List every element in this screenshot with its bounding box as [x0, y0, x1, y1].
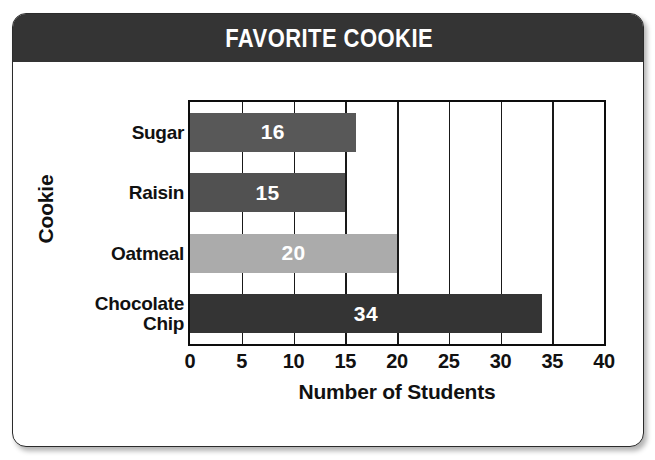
category-label: Chocolate Chip	[95, 294, 184, 333]
chart-body: Cookie SugarRaisinOatmealChocolate Chip …	[13, 62, 644, 446]
gridline-35	[552, 102, 554, 344]
bar-value-label: 20	[281, 241, 305, 265]
category-label-list: SugarRaisinOatmealChocolate Chip	[68, 100, 184, 346]
x-axis-tick-label: 40	[593, 350, 615, 373]
bar: 16	[190, 113, 356, 152]
bar: 34	[190, 294, 542, 333]
x-axis-tick-label: 25	[438, 350, 460, 373]
bar-value-label: 16	[261, 120, 285, 144]
bar-value-label: 34	[354, 302, 378, 326]
x-axis-tick-label: 30	[490, 350, 512, 373]
bar: 20	[190, 234, 397, 273]
plot-area: 16152034	[188, 100, 606, 346]
bar: 15	[190, 173, 345, 212]
x-axis-tick-label: 0	[185, 350, 196, 373]
x-axis-tick-label: 5	[236, 350, 247, 373]
x-axis-tick-list: 0510152025303540	[188, 350, 606, 378]
x-axis-title: Number of Students	[188, 380, 606, 404]
category-label: Sugar	[132, 123, 184, 142]
y-axis-title: Cookie	[34, 154, 58, 264]
chart-card: FAVORITE COOKIE Cookie SugarRaisinOatmea…	[12, 13, 644, 447]
x-axis-tick-label: 35	[541, 350, 563, 373]
x-axis-tick-label: 10	[283, 350, 305, 373]
category-label: Raisin	[129, 183, 184, 202]
chart-title-bar: FAVORITE COOKIE	[13, 14, 644, 62]
bar-value-label: 15	[256, 181, 280, 205]
chart-title: FAVORITE COOKIE	[225, 24, 433, 53]
x-axis-tick-label: 20	[386, 350, 408, 373]
category-label: Oatmeal	[111, 244, 184, 263]
plot-inner: 16152034	[190, 102, 604, 344]
x-axis-tick-label: 15	[334, 350, 356, 373]
